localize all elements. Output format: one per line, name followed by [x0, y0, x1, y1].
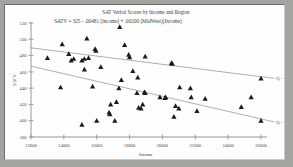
x-tick-label: 26000	[255, 143, 267, 148]
data-point-marker	[84, 36, 89, 41]
data-point-marker	[82, 67, 87, 72]
data-point-marker	[203, 96, 208, 101]
x-tick-label: 12000	[25, 143, 37, 148]
x-tick-label: 14000	[58, 143, 70, 148]
data-point-marker	[60, 41, 65, 46]
y-tick-label: 460	[20, 70, 28, 75]
regression-lines-group	[31, 48, 274, 122]
scatter-plot-figure: SAT Verbal Scores by Income and RegionSA…	[5, 5, 284, 159]
data-point-marker	[119, 77, 124, 82]
legend-label: Q = 1	[276, 76, 284, 81]
data-point-marker	[143, 54, 148, 59]
y-tick-label: 400	[20, 118, 28, 123]
data-point-marker	[173, 103, 178, 108]
legend-label: Q = 0	[276, 120, 284, 125]
screenshot-root: SAT Verbal Scores by Income and RegionSA…	[0, 0, 293, 167]
data-point-marker	[58, 85, 63, 90]
chart-canvas: SAT Verbal Scores by Income and RegionSA…	[5, 5, 284, 159]
data-point-marker	[171, 114, 176, 119]
data-point-marker	[194, 108, 199, 113]
data-point-marker	[135, 75, 140, 80]
legend-group: Q = 1Q = 0	[276, 76, 284, 125]
data-point-marker	[79, 122, 84, 127]
x-tick-label: 20000	[157, 143, 169, 148]
x-tick-label: 16000	[91, 143, 103, 148]
data-point-marker	[114, 99, 119, 104]
data-point-marker	[239, 104, 244, 109]
data-point-marker	[189, 94, 194, 99]
data-point-marker	[130, 68, 135, 73]
y-tick-label: 440	[20, 86, 28, 91]
data-point-marker	[112, 118, 117, 123]
data-point-marker	[82, 56, 87, 61]
x-axis-title: Income	[139, 152, 153, 157]
y-tick-label: 420	[20, 102, 28, 107]
title-group: SAT Verbal Scores by Income and RegionSA…	[54, 9, 190, 25]
data-point-marker	[98, 64, 103, 69]
chart-title: SAT Verbal Scores by Income and Region	[102, 9, 190, 15]
chart-window-frame: SAT Verbal Scores by Income and RegionSA…	[4, 4, 285, 160]
data-point-marker	[249, 94, 254, 99]
data-point-marker	[122, 42, 127, 47]
data-point-marker	[108, 102, 113, 107]
axes-group: 3804004204404604805005201200014000160001…	[12, 21, 267, 157]
y-tick-label: 500	[20, 37, 28, 42]
data-point-marker	[90, 84, 95, 89]
y-tick-label: 480	[20, 53, 28, 58]
data-point-marker	[117, 24, 122, 29]
data-points-group	[45, 24, 264, 126]
data-point-marker	[71, 56, 76, 61]
x-tick-label: 22000	[190, 143, 202, 148]
x-tick-label: 24000	[222, 143, 234, 148]
data-point-marker	[45, 55, 50, 60]
y-tick-label: 380	[20, 135, 28, 140]
regression-equation-annotation: SATV = 325 - .00481 (Income) + .00200 (M…	[54, 18, 182, 25]
y-tick-label: 520	[20, 21, 28, 26]
data-point-marker	[94, 118, 99, 123]
data-point-marker	[169, 60, 174, 65]
data-point-marker	[140, 102, 145, 107]
regression-line	[31, 66, 274, 122]
regression-line	[31, 48, 274, 79]
data-point-marker	[188, 85, 193, 90]
y-axis-title: SATV	[12, 74, 17, 86]
data-point-marker	[86, 55, 91, 60]
data-point-marker	[177, 85, 182, 90]
x-tick-label: 18000	[124, 143, 136, 148]
